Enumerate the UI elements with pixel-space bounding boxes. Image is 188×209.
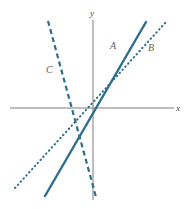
graph-canvas [0,0,188,209]
x-axis-label: x [176,104,180,113]
y-axis-label: y [90,9,94,18]
line-label-c: C [46,65,53,75]
line-c-dashed [48,21,96,197]
line-label-b: B [148,43,154,53]
line-a-solid [45,22,146,196]
lines-group [15,21,166,197]
line-label-a: A [110,41,116,51]
line-b-dotted [15,22,166,188]
line-graph-figure: x y A B C [0,0,188,209]
